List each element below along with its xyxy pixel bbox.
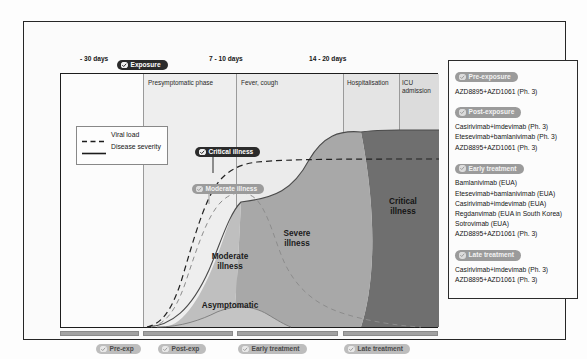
drug-list-late-treatment: Casirivimab+imdevimab (Ph. 3) AZD8895+AZ…	[455, 265, 571, 285]
check-icon	[196, 186, 203, 193]
drug-item: Sotrovimab (EUA)	[455, 219, 571, 229]
area-label-severe: Severe illness	[273, 229, 321, 248]
group-heading-label: Post-exposure	[469, 108, 515, 116]
drug-list-post-exposure: Casirivimab+imdevimab (Ph. 3) Etesevimab…	[455, 122, 571, 153]
group-heading-late-treatment[interactable]: Late treatment	[455, 250, 521, 261]
group-heading-label: Pre-exposure	[469, 73, 511, 81]
area-label-asymptomatic: Asymptomatic	[189, 301, 271, 311]
drug-item: AZD8895+AZD1061 (Ph. 3)	[455, 229, 571, 239]
callout-moderate-label: Moderate illness	[206, 185, 258, 193]
check-icon	[459, 74, 466, 81]
callout-moderate-illness[interactable]: Moderate illness	[192, 178, 264, 196]
check-icon	[459, 252, 466, 259]
group-heading-label: Early treatment	[469, 165, 517, 173]
group-heading-label: Late treatment	[469, 251, 514, 259]
check-icon	[348, 346, 355, 353]
legend-label-disease-severity: Disease severity	[111, 143, 161, 151]
legend-label-viral-load: Viral load	[111, 131, 139, 139]
bracket-label-pre-exposure: Pre-exp	[110, 345, 134, 353]
check-icon	[100, 346, 107, 353]
bracket-pill-pre-exposure[interactable]: Pre-exp	[96, 338, 141, 356]
group-heading-pre-exposure[interactable]: Pre-exposure	[455, 72, 518, 83]
exposure-marker[interactable]: Exposure	[117, 54, 168, 72]
drug-item: AZD8895+AZD1061 (Ph. 3)	[455, 87, 571, 97]
check-icon	[242, 346, 249, 353]
chart-legend: Viral load Disease severity	[76, 126, 168, 165]
bracket-pill-early-treatment[interactable]: Early treatment	[238, 338, 307, 356]
bracket-bar-post-exposure	[143, 331, 233, 336]
drug-item: Casirivimab+imdevimab (EUA)	[455, 199, 571, 209]
drug-item: Regdanvimab (EUA in South Korea)	[455, 209, 571, 219]
drug-item: Bamlanivimab (EUA)	[455, 178, 571, 188]
dashed-line-icon	[82, 132, 106, 141]
bracket-label-late-treatment: Late treatment	[358, 345, 403, 353]
legend-entry-viral-load: Viral load	[82, 131, 162, 141]
group-heading-early-treatment[interactable]: Early treatment	[455, 164, 524, 175]
group-heading-post-exposure[interactable]: Post-exposure	[455, 107, 521, 118]
drug-list-pre-exposure: AZD8895+AZD1061 (Ph. 3)	[455, 87, 571, 97]
drug-item: AZD8895+AZD1061 (Ph. 3)	[455, 275, 571, 285]
area-label-moderate: Moderate illness	[203, 252, 257, 271]
plot-region: Presymptomatic phase Fever, cough Hospit…	[60, 74, 438, 328]
treatment-group-early-treatment: Early treatment Bamlanivimab (EUA) Etese…	[455, 158, 571, 240]
drug-list-early-treatment: Bamlanivimab (EUA) Etesevimab+bamlanivim…	[455, 178, 571, 239]
drug-item: Casirivimab+imdevimab (Ph. 3)	[455, 265, 571, 275]
bracket-pill-post-exposure[interactable]: Post-exp	[158, 338, 206, 356]
legend-entry-disease-severity: Disease severity	[82, 143, 162, 153]
drug-item: Casirivimab+imdevimab (Ph. 3)	[455, 122, 571, 132]
check-icon	[199, 149, 206, 156]
check-icon	[121, 62, 128, 69]
bracket-label-early-treatment: Early treatment	[252, 345, 300, 353]
bracket-bar-early-treatment	[237, 331, 338, 336]
treatment-group-late-treatment: Late treatment Casirivimab+imdevimab (Ph…	[455, 245, 571, 286]
bracket-pill-late-treatment[interactable]: Late treatment	[344, 338, 410, 356]
axis-label-30days: - 30 days	[80, 55, 108, 62]
drug-item: AZD8895+AZD1061 (Ph. 3)	[455, 143, 571, 153]
figure-frame: - 30 days 7 - 10 days 14 - 20 days Expos…	[23, 21, 566, 340]
axis-label-14to20days: 14 - 20 days	[309, 55, 346, 62]
axis-label-7to10days: 7 - 10 days	[209, 55, 243, 62]
treatment-group-pre-exposure: Pre-exposure AZD8895+AZD1061 (Ph. 3)	[455, 66, 571, 97]
callout-critical-label: Critical illness	[209, 148, 254, 156]
chart-area: Presymptomatic phase Fever, cough Hospit…	[60, 74, 438, 328]
bracket-bar-late-treatment	[343, 331, 438, 336]
bracket-label-post-exposure: Post-exp	[172, 345, 200, 353]
drug-item: Etesevimab+bamlanivimab (Ph. 3)	[455, 132, 571, 142]
drug-item: Etesevimab+bamlanivimab (EUA)	[455, 189, 571, 199]
figure-page: - 30 days 7 - 10 days 14 - 20 days Expos…	[0, 0, 587, 359]
area-label-critical: Critical illness	[379, 197, 427, 216]
check-icon	[162, 346, 169, 353]
intervention-window-brackets: Pre-exp Post-exp	[60, 331, 438, 338]
callout-critical-illness[interactable]: Critical illness	[195, 141, 260, 159]
bracket-bar-pre-exposure	[60, 331, 139, 336]
solid-line-icon	[82, 144, 106, 153]
treatment-group-post-exposure: Post-exposure Casirivimab+imdevimab (Ph.…	[455, 102, 571, 153]
check-icon	[459, 165, 466, 172]
check-icon	[459, 109, 466, 116]
exposure-label: Exposure	[131, 61, 161, 69]
treatment-panel: Pre-exposure AZD8895+AZD1061 (Ph. 3) Pos…	[448, 60, 578, 299]
